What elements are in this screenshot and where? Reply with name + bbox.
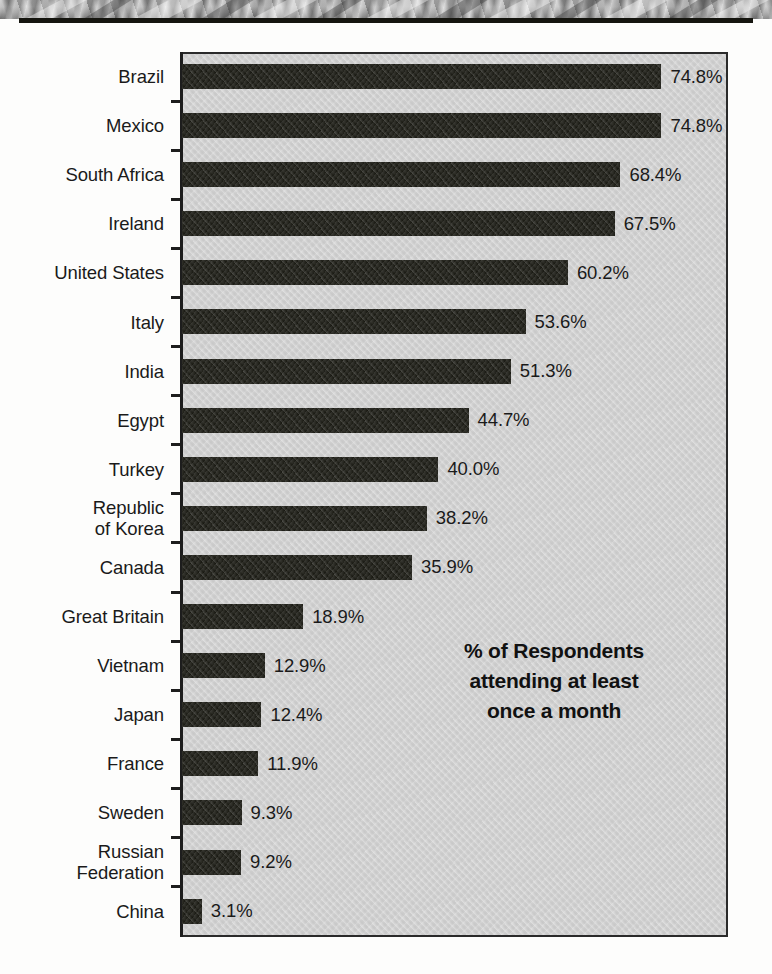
bar <box>182 64 661 89</box>
category-label: United States <box>0 248 164 297</box>
bar-row: United States60.2% <box>0 248 772 297</box>
category-label: Mexico <box>0 101 164 150</box>
value-label: 11.9% <box>267 739 318 788</box>
bar-row: Egypt44.7% <box>0 396 772 445</box>
bar <box>182 408 469 433</box>
bar-row: Turkey40.0% <box>0 445 772 494</box>
header-photo-banner <box>0 0 772 19</box>
bar <box>182 800 242 825</box>
bar <box>182 899 202 924</box>
value-label: 12.4% <box>270 690 322 739</box>
axis-tick <box>171 198 183 201</box>
value-label: 53.6% <box>535 297 587 346</box>
category-label: Japan <box>0 690 164 739</box>
category-label: Russian Federation <box>0 838 164 887</box>
bar-row: Italy53.6% <box>0 297 772 346</box>
category-label: Egypt <box>0 396 164 445</box>
category-label: Vietnam <box>0 641 164 690</box>
chart-page: Brazil74.8%Mexico74.8%South Africa68.4%I… <box>0 0 772 974</box>
bar-row: Brazil74.8% <box>0 52 772 101</box>
category-label: Ireland <box>0 199 164 248</box>
category-label: Canada <box>0 543 164 592</box>
axis-tick <box>171 443 183 446</box>
category-label: India <box>0 347 164 396</box>
bar-row: Republic of Korea38.2% <box>0 494 772 543</box>
value-label: 12.9% <box>274 641 326 690</box>
bar <box>182 653 265 678</box>
category-label: Brazil <box>0 52 164 101</box>
category-label: Italy <box>0 297 164 346</box>
category-label: Turkey <box>0 445 164 494</box>
category-label: Great Britain <box>0 592 164 641</box>
bar-rows: Brazil74.8%Mexico74.8%South Africa68.4%I… <box>0 52 772 936</box>
value-label: 38.2% <box>436 494 488 543</box>
bar-row: Sweden9.3% <box>0 788 772 837</box>
axis-tick <box>171 296 183 299</box>
value-label: 3.1% <box>211 887 253 936</box>
value-label: 74.8% <box>670 101 722 150</box>
value-label: 51.3% <box>520 347 572 396</box>
header-divider-rule <box>19 18 753 23</box>
category-label: South Africa <box>0 150 164 199</box>
axis-tick <box>171 394 183 397</box>
bar <box>182 309 526 334</box>
bar-row: Canada35.9% <box>0 543 772 592</box>
axis-tick <box>171 541 183 544</box>
category-label: France <box>0 739 164 788</box>
axis-tick <box>171 640 183 643</box>
chart-annotation: % of Respondents attending at least once… <box>404 636 704 726</box>
axis-tick <box>171 591 183 594</box>
category-label: Sweden <box>0 788 164 837</box>
axis-tick <box>171 689 183 692</box>
category-label: China <box>0 887 164 936</box>
bar-row: India51.3% <box>0 347 772 396</box>
axis-tick <box>171 836 183 839</box>
value-label: 18.9% <box>312 592 364 641</box>
bar <box>182 260 568 285</box>
axis-tick <box>171 149 183 152</box>
value-label: 40.0% <box>447 445 499 494</box>
axis-tick <box>171 492 183 495</box>
bar-row: Russian Federation9.2% <box>0 838 772 887</box>
bar <box>182 506 427 531</box>
bar <box>182 751 258 776</box>
bar <box>182 359 511 384</box>
value-label: 44.7% <box>478 396 530 445</box>
bar <box>182 850 241 875</box>
value-label: 35.9% <box>421 543 473 592</box>
bar <box>182 457 438 482</box>
category-label: Republic of Korea <box>0 494 164 543</box>
bar <box>182 555 412 580</box>
value-label: 68.4% <box>629 150 681 199</box>
bar <box>182 604 303 629</box>
bar-row: Ireland67.5% <box>0 199 772 248</box>
axis-tick <box>171 100 183 103</box>
bar-row: France11.9% <box>0 739 772 788</box>
bar-row: China3.1% <box>0 887 772 936</box>
value-label: 9.3% <box>251 788 293 837</box>
value-label: 67.5% <box>624 199 676 248</box>
axis-tick <box>171 345 183 348</box>
bar <box>182 211 615 236</box>
bar-row: Great Britain18.9% <box>0 592 772 641</box>
axis-tick <box>171 247 183 250</box>
bar-row: Mexico74.8% <box>0 101 772 150</box>
axis-tick <box>171 885 183 888</box>
value-label: 74.8% <box>670 52 722 101</box>
bar-row: South Africa68.4% <box>0 150 772 199</box>
value-label: 9.2% <box>250 838 292 887</box>
axis-tick <box>171 738 183 741</box>
bar <box>182 113 661 138</box>
bar <box>182 702 261 727</box>
axis-tick <box>171 787 183 790</box>
value-label: 60.2% <box>577 248 629 297</box>
bar <box>182 162 620 187</box>
